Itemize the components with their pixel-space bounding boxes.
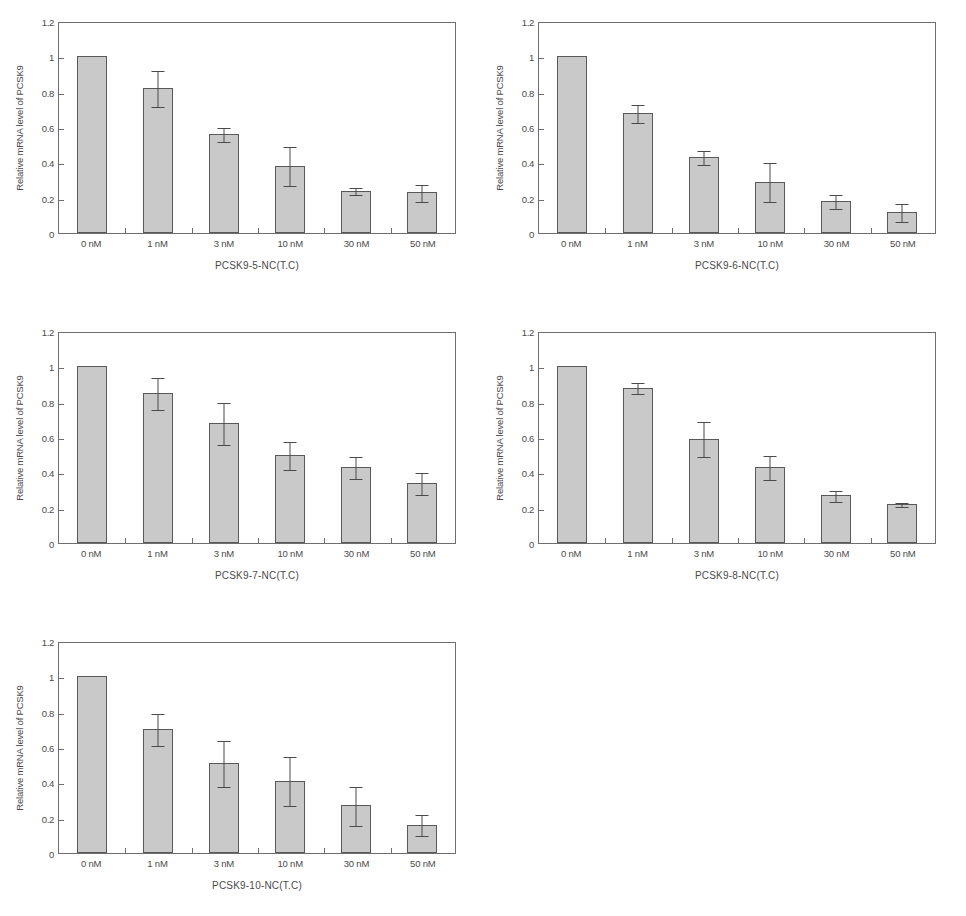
x-tick-label: 1 nM <box>604 238 670 249</box>
bar-slot <box>59 23 125 233</box>
x-tick-label: 1 nM <box>124 238 190 249</box>
bar <box>143 88 172 233</box>
error-bar-cap-bottom <box>284 806 297 807</box>
plot-wrap: Relative mRNA level of PCSK9 00.20.40.60… <box>8 624 478 872</box>
error-bar-cap-bottom <box>152 107 165 108</box>
y-tick-label: 0.4 <box>42 778 54 789</box>
bar <box>887 504 916 543</box>
error-bar-cap-top <box>896 503 909 504</box>
error-bar-cap-bottom <box>764 202 777 203</box>
bar-series <box>59 643 455 853</box>
bar-slot <box>125 23 191 233</box>
bar-slot <box>803 23 869 233</box>
plot-wrap: Relative mRNA level of PCSK9 00.20.40.60… <box>8 4 478 252</box>
bar <box>557 366 586 543</box>
x-tick-label: 0 nM <box>58 548 124 559</box>
x-tickmark <box>871 538 872 543</box>
plot-area <box>58 22 456 234</box>
x-tickmark <box>258 848 259 853</box>
y-tick-labels: 00.20.40.60.811.2 <box>500 332 534 544</box>
y-tick-label: 1 <box>529 52 534 63</box>
y-tick-label: 1.2 <box>522 17 534 28</box>
x-tick-label: 1 nM <box>124 548 190 559</box>
error-bar <box>290 442 291 470</box>
bar <box>623 113 652 233</box>
bar <box>407 825 436 853</box>
error-bar <box>836 491 837 502</box>
error-bar <box>356 188 357 195</box>
bar <box>77 366 106 543</box>
error-bar-cap-bottom <box>416 202 429 203</box>
error-bar-cap-top <box>284 757 297 758</box>
y-tick-label: 1 <box>49 52 54 63</box>
error-bar <box>902 204 903 222</box>
y-tickmark <box>59 404 64 405</box>
x-tickmark <box>804 228 805 233</box>
x-tick-label: 0 nM <box>538 238 604 249</box>
error-bar-cap-top <box>416 473 429 474</box>
error-bar-cap-bottom <box>218 142 231 143</box>
error-bar-cap-top <box>284 442 297 443</box>
bar-slot <box>257 643 323 853</box>
x-tick-labels: 0 nM1 nM3 nM10 nM30 nM50 nM <box>538 238 936 249</box>
error-bar-cap-bottom <box>830 209 843 210</box>
x-tick-label: 3 nM <box>191 548 257 559</box>
error-bar-cap-bottom <box>632 123 645 124</box>
y-tick-label: 1 <box>49 672 54 683</box>
error-bar-cap-bottom <box>830 502 843 503</box>
x-tickmark <box>324 228 325 233</box>
error-bar-cap-top <box>284 147 297 148</box>
y-tick-label: 0.8 <box>42 397 54 408</box>
error-bar-cap-top <box>632 383 645 384</box>
y-tickmark <box>539 510 544 511</box>
y-tickmark <box>539 58 544 59</box>
x-tick-label: 30 nM <box>803 548 869 559</box>
bar-slot <box>191 643 257 853</box>
error-bar-cap-top <box>830 491 843 492</box>
bar-slot <box>59 643 125 853</box>
y-tick-label: 0.2 <box>522 503 534 514</box>
plot-area <box>58 642 456 854</box>
y-tick-labels: 00.20.40.60.811.2 <box>500 22 534 234</box>
error-bar-cap-top <box>152 714 165 715</box>
x-tickmark <box>391 848 392 853</box>
bar-series <box>59 23 455 233</box>
bar-slot <box>323 643 389 853</box>
error-bar-cap-top <box>416 185 429 186</box>
y-tickmark <box>539 164 544 165</box>
error-bar-cap-top <box>218 741 231 742</box>
error-bar <box>290 757 291 806</box>
error-bar <box>422 185 423 203</box>
y-tickmark <box>59 678 64 679</box>
error-bar <box>158 378 159 410</box>
bar <box>887 212 916 233</box>
error-bar <box>836 195 837 209</box>
bar-slot <box>389 333 455 543</box>
x-tick-label: 50 nM <box>870 238 936 249</box>
error-bar-cap-bottom <box>350 826 363 827</box>
bar <box>341 805 370 853</box>
y-tick-label: 0.6 <box>42 743 54 754</box>
x-tick-label: 1 nM <box>604 548 670 559</box>
error-bar-cap-top <box>764 163 777 164</box>
x-tick-label: 3 nM <box>191 858 257 869</box>
figure-grid: Relative mRNA level of PCSK9 00.20.40.60… <box>0 0 966 916</box>
bar <box>821 201 850 233</box>
y-tick-label: 0 <box>49 849 54 860</box>
bar-slot <box>671 23 737 233</box>
bar-slot <box>323 23 389 233</box>
bar-series <box>59 333 455 543</box>
error-bar-cap-top <box>896 204 909 205</box>
bar-series <box>539 23 935 233</box>
plot-wrap: Relative mRNA level of PCSK9 00.20.40.60… <box>488 314 958 562</box>
error-bar <box>422 473 423 494</box>
error-bar <box>356 457 357 478</box>
x-tickmark <box>738 538 739 543</box>
bar-slot <box>125 643 191 853</box>
chart-panel-pcsk9-7: Relative mRNA level of PCSK9 00.20.40.60… <box>8 314 478 614</box>
error-bar <box>638 383 639 394</box>
x-tick-label: 50 nM <box>390 548 456 559</box>
error-bar-cap-top <box>152 378 165 379</box>
chart-panel-pcsk9-6: Relative mRNA level of PCSK9 00.20.40.60… <box>488 4 958 304</box>
error-bar-cap-top <box>152 71 165 72</box>
